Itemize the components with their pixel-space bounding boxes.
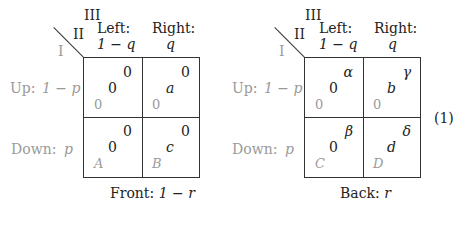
payoff-player1: D [373, 156, 383, 171]
col-left-prob: 1 − q [97, 37, 136, 51]
payoff-player2: b [387, 80, 396, 96]
row-up-label: Up: [232, 81, 257, 95]
payoff-player2: d [387, 139, 396, 155]
payoff-player2: 0 [329, 80, 338, 96]
player1-label: I [58, 44, 64, 58]
payoff-player2: a [166, 80, 174, 96]
col-left-prob: 1 − q [319, 37, 358, 51]
cell-down-left: β 0 C [305, 117, 363, 177]
payoff-player1: 0 [373, 97, 381, 112]
payoff-player1: C [315, 156, 325, 171]
cell-down-right: δ d D [363, 117, 421, 177]
payoff-player3: α [344, 64, 353, 80]
front-caption: Front: 1 − r [110, 186, 195, 200]
payoff-player3: 0 [181, 64, 190, 80]
payoff-player2: 0 [108, 80, 117, 96]
row-up-prob: 1 − p [42, 81, 81, 95]
payoff-grid: 0 0 0 0 a 0 0 0 A 0 c B [83, 57, 200, 178]
back-caption: Back: r [340, 186, 391, 200]
row-down-label: Down: [232, 142, 277, 156]
col-left-label: Left: [97, 21, 130, 35]
payoff-player3: β [345, 123, 353, 139]
caption-label: Front: [110, 185, 154, 201]
cell-down-right: 0 c B [142, 117, 200, 177]
col-right-prob: q [166, 37, 175, 51]
caption-prob: r [384, 185, 391, 201]
cell-up-left: 0 0 0 [84, 58, 142, 118]
row-down-label: Down: [11, 142, 56, 156]
row-down-prob: p [285, 142, 294, 156]
payoff-grid: α 0 0 γ b 0 β 0 C δ d D [304, 57, 421, 178]
cell-up-right: γ b 0 [363, 58, 421, 118]
payoff-player3: 0 [123, 123, 132, 139]
col-left-label: Left: [319, 21, 352, 35]
payoff-player3: γ [403, 64, 411, 80]
payoff-player1: B [152, 156, 162, 171]
payoff-player3: δ [403, 123, 411, 139]
payoff-player1: 0 [94, 97, 102, 112]
caption-prob: 1 − r [159, 185, 195, 201]
col-right-label: Right: [152, 21, 195, 35]
player2-label: II [73, 27, 84, 41]
row-up-label: Up: [10, 81, 35, 95]
player1-label: I [279, 44, 285, 58]
row-down-prob: p [64, 142, 73, 156]
cell-up-right: 0 a 0 [142, 58, 200, 118]
payoff-player1: 0 [152, 97, 160, 112]
payoff-player3: 0 [181, 123, 190, 139]
col-right-prob: q [388, 37, 397, 51]
payoff-player1: 0 [315, 97, 323, 112]
col-right-label: Right: [374, 21, 417, 35]
row-up-prob: 1 − p [264, 81, 303, 95]
payoff-player1: A [94, 156, 103, 171]
cell-down-left: 0 0 A [84, 117, 142, 177]
payoff-player3: 0 [123, 64, 132, 80]
player2-label: II [294, 27, 305, 41]
payoff-player2: 0 [108, 139, 117, 155]
cell-up-left: α 0 0 [305, 58, 363, 118]
caption-label: Back: [340, 185, 380, 201]
payoff-player2: 0 [329, 139, 338, 155]
equation-number: (1) [434, 111, 454, 125]
payoff-player2: c [166, 139, 174, 155]
